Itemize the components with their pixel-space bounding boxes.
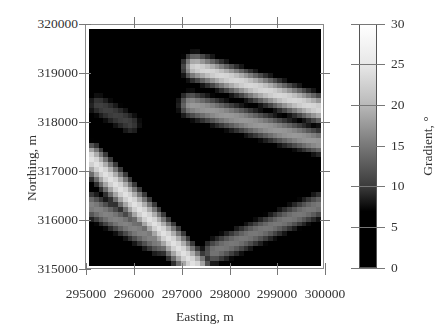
x-tick-top bbox=[134, 17, 135, 28]
y-tick-label: 320000 bbox=[26, 17, 78, 31]
y-tick bbox=[79, 24, 91, 25]
x-axis-title: Easting, m bbox=[176, 309, 234, 325]
y-tick bbox=[79, 73, 91, 74]
colorbar-tick bbox=[351, 105, 385, 106]
y-tick-label: 319000 bbox=[26, 66, 78, 80]
colorbar-tick bbox=[351, 24, 385, 25]
x-tick bbox=[230, 263, 231, 275]
y-tick-label: 315000 bbox=[26, 262, 78, 276]
colorbar-title: Gradient, ° bbox=[420, 101, 436, 191]
y-tick-label: 316000 bbox=[26, 213, 78, 227]
x-tick-top bbox=[230, 17, 231, 28]
y-tick-right bbox=[320, 122, 330, 123]
x-tick bbox=[277, 263, 278, 275]
y-axis-title: Northing, m bbox=[24, 128, 40, 208]
colorbar-label: 20 bbox=[391, 98, 405, 112]
y-tick bbox=[79, 171, 91, 172]
y-tick-right bbox=[320, 73, 330, 74]
colorbar-label: 0 bbox=[391, 261, 398, 275]
y-tick-label: 318000 bbox=[26, 115, 78, 129]
y-tick-right bbox=[320, 171, 330, 172]
colorbar-tick bbox=[351, 227, 385, 228]
y-tick bbox=[79, 269, 91, 270]
x-tick bbox=[182, 263, 183, 275]
x-tick-top bbox=[277, 17, 278, 28]
colorbar-label: 10 bbox=[391, 179, 405, 193]
y-tick bbox=[79, 220, 91, 221]
colorbar-tick bbox=[351, 146, 385, 147]
x-tick-top bbox=[182, 17, 183, 28]
x-tick-label: 300000 bbox=[295, 286, 355, 302]
y-tick bbox=[79, 122, 91, 123]
y-tick-right bbox=[320, 220, 330, 221]
colorbar-tick bbox=[351, 186, 385, 187]
x-tick bbox=[134, 263, 135, 275]
colorbar-label: 15 bbox=[391, 139, 405, 153]
colorbar-tick bbox=[351, 268, 385, 269]
colorbar-tick bbox=[351, 64, 385, 65]
colorbar-label: 30 bbox=[391, 17, 405, 31]
colorbar-label: 5 bbox=[391, 220, 398, 234]
gradient-heatmap bbox=[89, 29, 321, 266]
x-tick bbox=[325, 263, 326, 275]
colorbar-label: 25 bbox=[391, 57, 405, 71]
x-tick bbox=[86, 263, 87, 275]
